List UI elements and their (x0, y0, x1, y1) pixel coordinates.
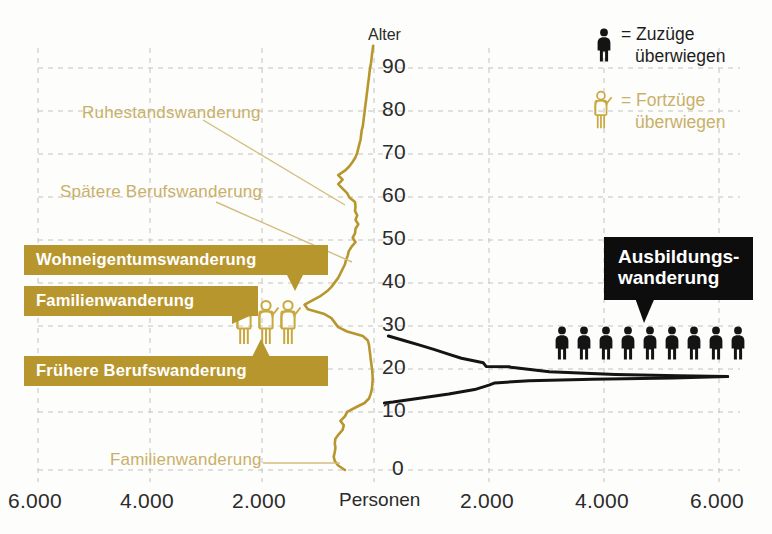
chart-canvas: Alter 90 80 70 60 50 40 30 20 10 0 6.000… (0, 0, 772, 534)
x-tick-left-6000: 6.000 (8, 489, 62, 513)
x-tick-left-4000: 4.000 (120, 489, 174, 513)
y-tick-70: 70 (382, 140, 406, 164)
y-tick-90: 90 (382, 54, 406, 78)
x-tick-right-6000: 6.000 (690, 489, 744, 513)
legend-label-fortzuege-line1: Fortzüge (636, 90, 705, 110)
legend-item-fortzuege: = Fortzüge überwiegen (621, 90, 725, 134)
series-zuzuege-lower-line (384, 377, 727, 403)
y-tick-40: 40 (382, 269, 406, 293)
legend-label-zuzuege-line1: Zuzüge (636, 24, 694, 44)
y-tick-80: 80 (382, 97, 406, 121)
y-axis-caption: Alter (368, 26, 401, 44)
callout-tail (286, 273, 304, 291)
y-tick-60: 60 (382, 183, 406, 207)
x-tick-left-2000: 2.000 (232, 489, 286, 513)
black-person-group (556, 327, 745, 360)
legend-equals-sign: = (621, 24, 631, 44)
legend-label-zuzuege-line2: überwiegen (635, 46, 725, 68)
y-tick-50: 50 (382, 226, 406, 250)
callout-ausbildungswanderung: Ausbildungs- wanderung (604, 237, 753, 300)
legend-item-zuzuege: = Zuzüge überwiegen (621, 24, 725, 68)
y-tick-0: 0 (392, 456, 404, 480)
y-tick-10: 10 (382, 398, 406, 422)
x-tick-right-2000: 2.000 (460, 489, 514, 513)
callout-fruehere-berufswanderung-label: Frühere Berufswanderung (36, 361, 247, 379)
callout-ausbildungswanderung-line2: wanderung (618, 267, 739, 288)
callout-familienwanderung-label: Familienwanderung (36, 291, 194, 309)
callout-wohneigentumswanderung: Wohneigentumswanderung (24, 245, 328, 275)
y-tick-20: 20 (382, 355, 406, 379)
y-tick-30: 30 (382, 312, 406, 336)
callout-ausbildungswanderung-line1: Ausbildungs- (618, 246, 739, 267)
annotation-spaetere-berufswanderung: Spätere Berufswanderung (60, 182, 262, 202)
callout-tail (232, 306, 252, 324)
legend-equals-sign: = (621, 90, 631, 110)
legend-person-gold-icon (595, 92, 611, 129)
annotation-familienwanderung-unten: Familienwanderung (110, 450, 262, 470)
callout-fruehere-berufswanderung: Frühere Berufswanderung (24, 356, 328, 386)
x-axis-center-caption: Personen (339, 489, 420, 511)
x-tick-right-4000: 4.000 (575, 489, 629, 513)
callout-tail (252, 339, 270, 357)
callout-tail (634, 295, 656, 323)
annotation-ruhestandswanderung: Ruhestandswanderung (82, 103, 261, 123)
legend-label-fortzuege-line2: überwiegen (635, 112, 725, 134)
callout-wohneigentumswanderung-label: Wohneigentumswanderung (36, 250, 256, 268)
legend-person-black-icon (598, 29, 611, 62)
callout-familienwanderung: Familienwanderung (24, 286, 258, 316)
